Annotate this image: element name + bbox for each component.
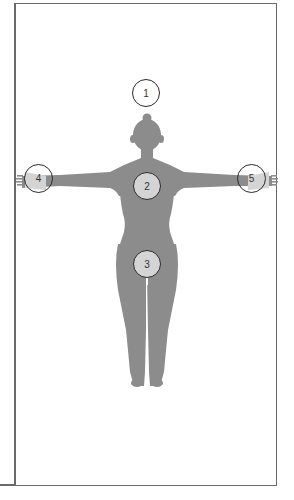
marker-4-label: 4 <box>36 173 42 184</box>
marker-3[interactable]: 3 <box>133 250 161 278</box>
marker-4[interactable]: 4 <box>24 164 53 193</box>
marker-1-label: 1 <box>143 88 149 99</box>
marker-5-label: 5 <box>249 173 255 184</box>
marker-2-label: 2 <box>144 181 150 192</box>
marker-2[interactable]: 2 <box>133 172 161 200</box>
marker-5[interactable]: 5 <box>237 164 266 193</box>
marker-1[interactable]: 1 <box>132 79 160 107</box>
marker-3-label: 3 <box>144 259 150 270</box>
